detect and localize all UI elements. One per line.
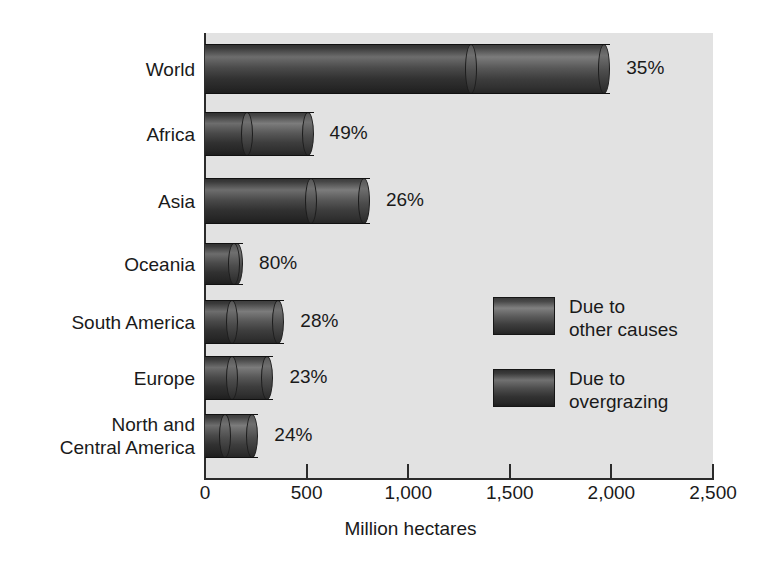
legend-swatch-overgrazing (493, 369, 555, 407)
x-tick-label: 0 (200, 482, 211, 504)
bar-percent-label: 28% (300, 311, 338, 331)
cylinder-cap (302, 112, 314, 156)
bar-europe[interactable] (205, 356, 267, 400)
legend-label: Due to overgrazing (569, 367, 668, 413)
bar-percent-label: 24% (274, 425, 312, 445)
chart-legend: Due to other causesDue to overgrazing (493, 295, 703, 439)
legend-label: Due to other causes (569, 295, 678, 341)
x-tick-label: 1,500 (486, 482, 534, 504)
bar-percent-label: 35% (626, 58, 664, 78)
bar-chart-figure: 05001,0001,5002,0002,500 WorldAfricaAsia… (0, 0, 776, 572)
cylinder-seam (305, 178, 317, 224)
bar-segment-overgrazing[interactable] (205, 44, 471, 94)
x-tick-mark (712, 464, 714, 479)
bar-segment-overgrazing[interactable] (205, 300, 232, 344)
legend-item-overgrazing[interactable]: Due to overgrazing (493, 367, 703, 413)
cylinder-cap (358, 178, 370, 224)
category-label-south-america: South America (71, 311, 195, 334)
bar-percent-label: 80% (259, 253, 297, 273)
bar-north-and[interactable] (205, 414, 252, 458)
legend-item-other[interactable]: Due to other causes (493, 295, 703, 341)
bar-segment-overgrazing[interactable] (205, 356, 232, 400)
bar-percent-label: 26% (386, 190, 424, 210)
x-tick-mark (204, 464, 206, 479)
bar-segment-overgrazing[interactable] (205, 112, 247, 156)
bar-segment-overgrazing[interactable] (205, 178, 311, 224)
x-tick-label: 2,000 (588, 482, 636, 504)
category-label-asia: Asia (158, 190, 195, 213)
category-label-north-and: North and Central America (60, 413, 195, 459)
x-tick-label: 2,500 (689, 482, 737, 504)
bar-asia[interactable] (205, 178, 364, 224)
x-axis-title: Million hectares (0, 518, 776, 540)
bar-oceania[interactable] (205, 243, 237, 285)
x-tick-label: 500 (291, 482, 323, 504)
bar-south-america[interactable] (205, 300, 278, 344)
legend-swatch-other (493, 297, 555, 335)
x-tick-mark (610, 464, 612, 479)
x-tick-label: 1,000 (384, 482, 432, 504)
x-tick-mark (509, 464, 511, 479)
x-axis-line (204, 478, 714, 480)
category-label-africa: Africa (146, 123, 195, 146)
category-label-world: World (146, 58, 195, 81)
bar-segment-overgrazing[interactable] (205, 414, 225, 458)
bar-percent-label: 49% (330, 123, 368, 143)
category-label-europe: Europe (134, 367, 195, 390)
bar-world[interactable] (205, 44, 604, 94)
x-tick-mark (407, 464, 409, 479)
bar-africa[interactable] (205, 112, 308, 156)
bar-percent-label: 23% (289, 367, 327, 387)
bar-segment-overgrazing[interactable] (205, 243, 234, 285)
x-tick-mark (306, 464, 308, 479)
category-label-oceania: Oceania (124, 253, 195, 276)
